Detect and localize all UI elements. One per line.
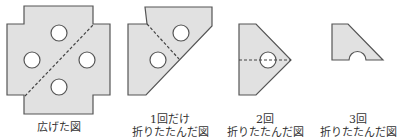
label-line1: 広げた図 [37, 121, 81, 134]
label-folded-once: 1回だけ 折りたたんだ図 [132, 113, 209, 139]
folded-once-paper [128, 7, 212, 95]
label-line1: 3回 [320, 113, 397, 126]
folded-thrice-paper [332, 24, 383, 60]
hole-right [79, 52, 95, 68]
label-line2: 折りたたんだ図 [132, 126, 209, 139]
hole-bottom [51, 79, 67, 95]
hole-top [51, 25, 67, 41]
label-line2: 折りたたんだ図 [320, 126, 397, 139]
hole-upper [173, 25, 189, 41]
hole-left [24, 52, 40, 68]
label-line1: 2回 [227, 113, 304, 126]
label-folded-twice: 2回 折りたたんだ図 [227, 113, 304, 139]
hole-center [260, 52, 276, 68]
figure-unfolded [7, 6, 110, 114]
figure-folded-thrice [332, 24, 383, 60]
label-unfolded: 広げた図 [37, 121, 81, 134]
figure-folded-once [128, 7, 212, 95]
label-line2: 折りたたんだ図 [227, 126, 304, 139]
label-folded-thrice: 3回 折りたたんだ図 [320, 113, 397, 139]
hole-lower [150, 52, 166, 68]
label-line1: 1回だけ [132, 113, 209, 126]
figure-folded-twice [239, 24, 291, 95]
